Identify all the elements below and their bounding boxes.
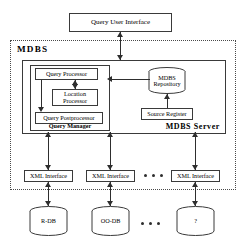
source-register-label: Source Register [147, 111, 186, 118]
node-query-processor: Query Processor [35, 68, 98, 80]
mdbs-repository-label: MDBS Repository [148, 75, 186, 88]
query-postprocessor-label: Query Postprocessor [43, 115, 94, 122]
architecture-diagram: Query User Interface MDBS MDBS Server Qu… [0, 0, 240, 244]
database-unknown-label: ? [176, 218, 215, 225]
node-mdbs-repository: MDBS Repository [148, 67, 186, 94]
ellipsis-dot [152, 174, 155, 177]
ellipsis-dot [144, 174, 147, 177]
node-database-unknown: ? [176, 206, 215, 236]
xml-interface-1-label: XML Interface [30, 173, 67, 180]
ellipsis-interfaces [144, 174, 163, 177]
ellipsis-dot [149, 222, 152, 225]
query-user-interface-label: Query User Interface [91, 19, 150, 26]
node-source-register: Source Register [141, 108, 193, 120]
edge-xml2-to-oodb-arrow-up [107, 182, 113, 187]
node-xml-interface-1: XML Interface [24, 170, 73, 182]
ellipsis-dot [160, 174, 163, 177]
edge-xml3-to-unknown-db-arrow-up [192, 182, 198, 187]
edge-repository-to-query-manager [112, 79, 150, 80]
query-processor-label: Query Processor [46, 71, 87, 78]
node-query-user-interface: Query User Interface [69, 13, 172, 32]
node-xml-interface-2: XML Interface [86, 170, 135, 182]
edge-qui-to-server-arrow-up [117, 32, 123, 37]
edge-qp-to-lp-arrow-down [72, 84, 78, 89]
database-r-db-label: R-DB [29, 218, 68, 225]
edge-repository-to-query-manager-arrow [107, 76, 112, 82]
edge-source-register-to-repository-arrow [164, 94, 170, 99]
ellipsis-dot [157, 222, 160, 225]
edge-xml1-to-rdb-arrow-up [45, 182, 51, 187]
database-oo-db-label: OO-DB [91, 218, 130, 225]
node-database-oo-db: OO-DB [91, 206, 130, 236]
mdbs-boundary-label: MDBS [17, 44, 48, 54]
edge-qp-to-postprocessor [41, 80, 42, 107]
xml-interface-2-label: XML Interface [92, 173, 129, 180]
edge-server-to-xml3-arrow-up [192, 132, 198, 137]
edge-server-to-xml2-arrow-up [107, 132, 113, 137]
mdbs-server-label: MDBS Server [166, 122, 220, 131]
xml-interface-3-label: XML Interface [177, 173, 214, 180]
ellipsis-databases [141, 222, 160, 225]
ellipsis-dot [141, 222, 144, 225]
location-processor-label: Location Processor [63, 91, 87, 104]
edge-qp-to-postprocessor-arrow [38, 107, 44, 112]
node-query-postprocessor: Query Postprocessor [35, 112, 103, 124]
node-xml-interface-3: XML Interface [171, 170, 220, 182]
edge-server-to-xml1-arrow-up [45, 132, 51, 137]
node-location-processor: Location Processor [52, 89, 98, 106]
node-database-r-db: R-DB [29, 206, 68, 236]
